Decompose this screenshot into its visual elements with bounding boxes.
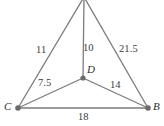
edge-label-c-b: 18 — [78, 112, 89, 123]
edge-apex-to-b — [84, 0, 148, 108]
edge-apex-to-c — [18, 0, 84, 108]
edge-label-apex-b: 21.5 — [119, 44, 138, 55]
vertex-dot-group — [15, 75, 151, 110]
edge-apex-to-d — [83, 0, 84, 78]
vertex-label-c: C — [4, 101, 11, 112]
edge-label-d-c: 7.5 — [38, 78, 51, 89]
edge-label-apex-c: 11 — [36, 45, 46, 56]
vertex-label-d: D — [87, 64, 95, 75]
vertex-label-b: B — [153, 101, 160, 112]
diagram-canvas — [0, 0, 164, 126]
vertex-dot-d — [80, 75, 85, 80]
vertex-dot-c — [15, 105, 21, 111]
geometry-diagram: 11 10 21.5 7.5 14 18 D C B — [0, 0, 164, 126]
edge-label-apex-d: 10 — [83, 43, 94, 54]
vertex-dot-b — [145, 105, 151, 111]
edge-label-d-b: 14 — [110, 80, 121, 91]
